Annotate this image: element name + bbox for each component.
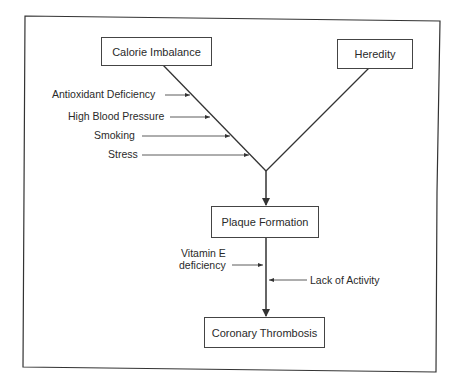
coronary-thrombosis-label: Coronary Thrombosis <box>212 327 318 339</box>
coronary-thrombosis-node: Coronary Thrombosis <box>204 317 325 348</box>
heredity-label: Heredity <box>355 48 396 60</box>
stress-label: Stress <box>108 148 138 160</box>
vitamin-e-label-line2: deficiency <box>179 259 226 271</box>
vitamin-e-label-line1: Vitamin E <box>181 247 226 259</box>
high-blood-pressure-label: High Blood Pressure <box>68 110 164 122</box>
plaque-formation-node: Plaque Formation <box>211 206 319 238</box>
smoking-label: Smoking <box>94 129 135 141</box>
antioxidant-deficiency-label: Antioxidant Deficiency <box>52 88 155 100</box>
calorie-imbalance-node: Calorie Imbalance <box>101 37 212 66</box>
heredity-to-vertex-line <box>266 68 369 171</box>
calorie-imbalance-label: Calorie Imbalance <box>112 46 201 58</box>
lack-of-activity-label: Lack of Activity <box>310 274 379 286</box>
heredity-node: Heredity <box>337 39 413 69</box>
plaque-formation-label: Plaque Formation <box>222 216 309 228</box>
